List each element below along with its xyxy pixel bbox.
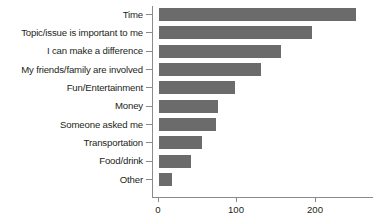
x-tick-0 [158, 197, 159, 202]
bar-other [159, 173, 172, 186]
bar-food-drink [159, 155, 191, 168]
plot-area [0, 0, 374, 223]
bar-chart: Time Topic/issue is important to me I ca… [0, 0, 374, 223]
bar-fun-entertainment [159, 81, 235, 94]
x-tick-label-100: 100 [228, 204, 244, 215]
x-tick-100 [236, 197, 237, 202]
bar-friends-family [159, 63, 261, 76]
bar-money [159, 100, 218, 113]
bar-someone-asked-me [159, 118, 216, 131]
x-tick-200 [315, 197, 316, 202]
x-axis-line [152, 197, 373, 198]
bar-topic-issue [159, 26, 312, 39]
x-tick-label-0: 0 [155, 204, 160, 215]
bar-time [159, 8, 356, 21]
x-tick-label-200: 200 [307, 204, 323, 215]
bar-make-difference [159, 45, 281, 58]
bar-transportation [159, 136, 202, 149]
